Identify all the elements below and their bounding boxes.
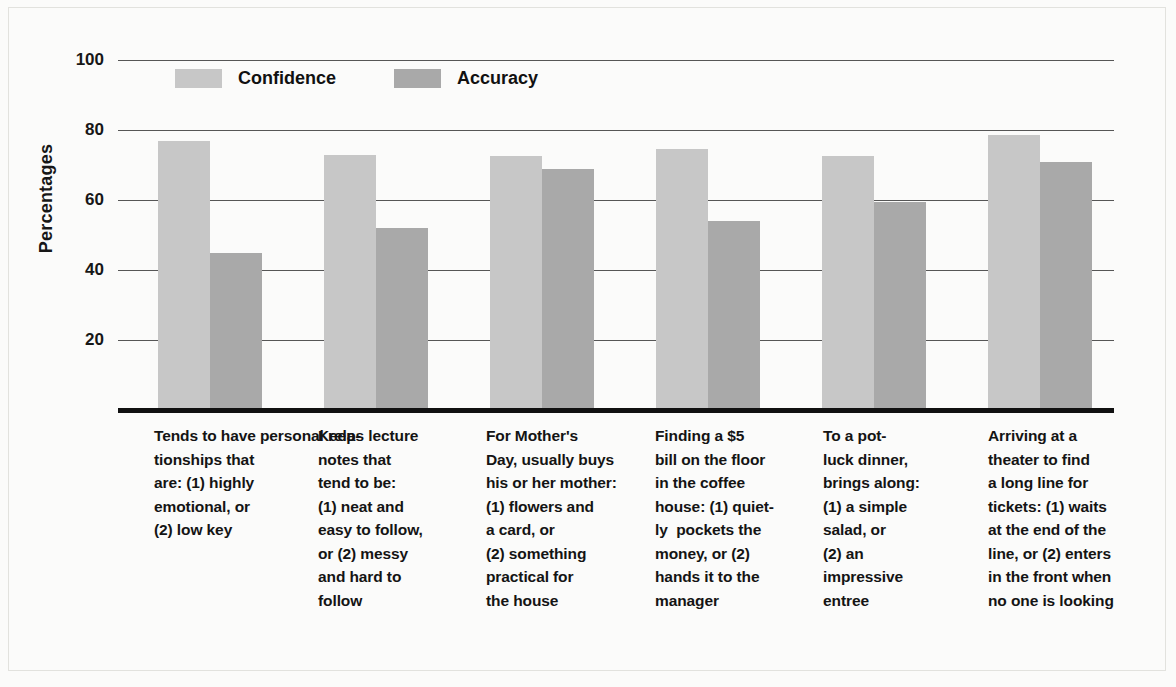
category-caption-6: Arriving at atheater to finda long line … — [988, 424, 1163, 612]
bar-confidence-group-1[interactable] — [158, 141, 210, 411]
caption-line: in the front when — [988, 565, 1163, 589]
caption-line: (2) something — [486, 542, 648, 566]
bar-group-5 — [782, 60, 948, 410]
chart-figure: Percentages 10080604020 ConfidenceAccura… — [0, 0, 1176, 687]
caption-line: To a pot- — [823, 424, 963, 448]
caption-line: no one is looking — [988, 589, 1163, 613]
category-caption-4: Finding a $5bill on the floorin the coff… — [655, 424, 813, 612]
category-caption-3: For Mother'sDay, usually buyshis or her … — [486, 424, 648, 612]
caption-line: practical for — [486, 565, 648, 589]
caption-line: ly pockets the — [655, 518, 813, 542]
caption-line: (1) neat and — [318, 495, 468, 519]
caption-line: tend to be: — [318, 471, 468, 495]
caption-line: Day, usually buys — [486, 448, 648, 472]
caption-line: his or her mother: — [486, 471, 648, 495]
category-caption-5: To a pot-luck dinner,brings along:(1) a … — [823, 424, 963, 612]
caption-line: a card, or — [486, 518, 648, 542]
caption-line: line, or (2) enters — [988, 542, 1163, 566]
bar-confidence-group-6[interactable] — [988, 135, 1040, 410]
caption-line: (1) a simple — [823, 495, 963, 519]
bar-confidence-group-3[interactable] — [490, 156, 542, 410]
bar-group-1 — [118, 60, 284, 410]
caption-line: are: (1) highly — [154, 471, 312, 495]
caption-line: money, or (2) — [655, 542, 813, 566]
caption-line: Arriving at a — [988, 424, 1163, 448]
caption-line: (2) an — [823, 542, 963, 566]
caption-line: Keeps lecture — [318, 424, 468, 448]
caption-line: salad, or — [823, 518, 963, 542]
caption-line: entree — [823, 589, 963, 613]
bar-accuracy-group-1[interactable] — [210, 253, 262, 411]
category-caption-2: Keeps lecturenotes thattend to be:(1) ne… — [318, 424, 468, 612]
legend-item-confidence[interactable]: Confidence — [175, 68, 336, 89]
bar-confidence-group-5[interactable] — [822, 156, 874, 410]
caption-line: the house — [486, 589, 648, 613]
x-axis-line — [118, 408, 1114, 413]
caption-line: at the end of the — [988, 518, 1163, 542]
bar-confidence-group-2[interactable] — [324, 155, 376, 411]
caption-line: easy to follow, — [318, 518, 468, 542]
caption-line: in the coffee — [655, 471, 813, 495]
caption-line: bill on the floor — [655, 448, 813, 472]
caption-line: (2) low key — [154, 518, 312, 542]
caption-line: notes that — [318, 448, 468, 472]
caption-line: emotional, or — [154, 495, 312, 519]
y-axis-title: Percentages — [36, 109, 57, 289]
legend-swatch-icon-accuracy — [394, 69, 441, 88]
bar-group-2 — [284, 60, 450, 410]
caption-line: a long line for — [988, 471, 1163, 495]
bar-group-4 — [616, 60, 782, 410]
category-caption-1: Tends to have personal rela-tionships th… — [154, 424, 312, 542]
caption-line: tionships that — [154, 448, 312, 472]
chart-legend: ConfidenceAccuracy — [175, 68, 538, 89]
caption-line: house: (1) quiet- — [655, 495, 813, 519]
caption-line: brings along: — [823, 471, 963, 495]
y-tick-label-100: 100 — [58, 51, 104, 68]
caption-line: tickets: (1) waits — [988, 495, 1163, 519]
bar-accuracy-group-2[interactable] — [376, 228, 428, 410]
caption-line: Tends to have personal rela- — [154, 424, 312, 448]
caption-line: manager — [655, 589, 813, 613]
legend-label-accuracy: Accuracy — [457, 68, 538, 89]
bar-group-6 — [948, 60, 1114, 410]
y-tick-label-80: 80 — [58, 121, 104, 138]
caption-line: Finding a $5 — [655, 424, 813, 448]
caption-line: and hard to — [318, 565, 468, 589]
bar-accuracy-group-6[interactable] — [1040, 162, 1092, 411]
caption-line: hands it to the — [655, 565, 813, 589]
legend-swatch-icon-confidence — [175, 69, 222, 88]
legend-item-accuracy[interactable]: Accuracy — [394, 68, 538, 89]
bar-confidence-group-4[interactable] — [656, 149, 708, 410]
bar-accuracy-group-3[interactable] — [542, 169, 594, 411]
caption-line: follow — [318, 589, 468, 613]
caption-line: impressive — [823, 565, 963, 589]
y-tick-label-20: 20 — [58, 331, 104, 348]
caption-line: or (2) messy — [318, 542, 468, 566]
legend-label-confidence: Confidence — [238, 68, 336, 89]
caption-line: theater to find — [988, 448, 1163, 472]
y-axis-tick-labels: 10080604020 — [58, 0, 104, 687]
caption-line: (1) flowers and — [486, 495, 648, 519]
bar-accuracy-group-5[interactable] — [874, 202, 926, 410]
y-tick-label-40: 40 — [58, 261, 104, 278]
category-captions: Tends to have personal rela-tionships th… — [118, 424, 1128, 634]
y-tick-label-60: 60 — [58, 191, 104, 208]
bar-group-3 — [450, 60, 616, 410]
caption-line: For Mother's — [486, 424, 648, 448]
bar-series-container — [118, 60, 1114, 410]
bar-accuracy-group-4[interactable] — [708, 221, 760, 410]
caption-line: luck dinner, — [823, 448, 963, 472]
